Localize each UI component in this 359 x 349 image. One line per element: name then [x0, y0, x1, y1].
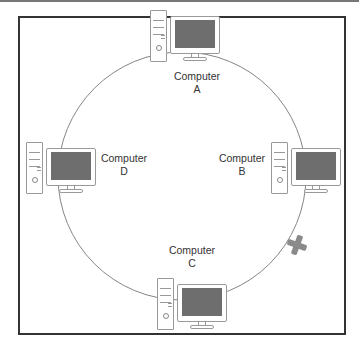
label-line1: Computer [207, 152, 277, 165]
label-line1: Computer [162, 70, 232, 83]
monitor-icon [291, 148, 341, 186]
computer-d-label: Computer D [89, 152, 159, 178]
computer-b-icon [271, 142, 351, 198]
tower-icon [150, 10, 167, 62]
label-line2: B [207, 165, 277, 178]
monitor-icon [170, 16, 220, 54]
label-line2: D [89, 165, 159, 178]
tower-icon [157, 278, 174, 330]
computer-a-icon [150, 10, 230, 66]
label-line2: A [162, 83, 232, 96]
monitor-icon [177, 284, 227, 322]
link-break-x-icon [286, 234, 308, 256]
computer-b-label: Computer B [207, 152, 277, 178]
label-line1: Computer [157, 244, 227, 257]
label-line1: Computer [89, 152, 159, 165]
tower-icon [26, 142, 43, 194]
label-line2: C [157, 257, 227, 270]
computer-a-label: Computer A [162, 70, 232, 96]
computer-c-label: Computer C [157, 244, 227, 270]
computer-c-icon [157, 278, 237, 334]
